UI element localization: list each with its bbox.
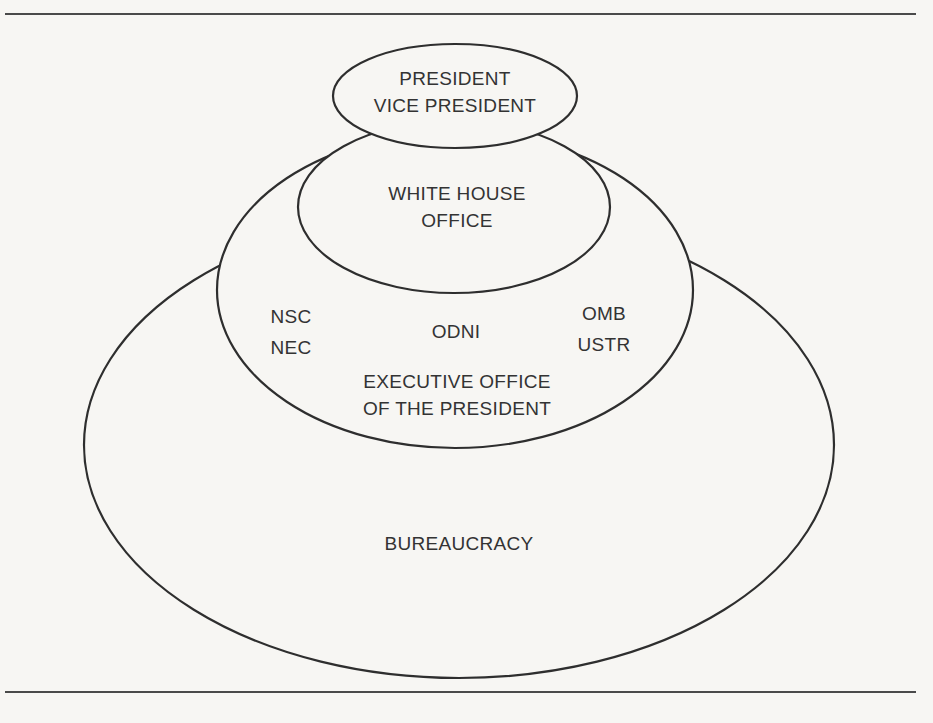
omb-text: OMB: [578, 298, 631, 329]
president-label: PRESIDENT VICE PRESIDENT: [374, 65, 537, 119]
president-text: PRESIDENT: [374, 65, 537, 92]
office-text: OFFICE: [388, 207, 525, 234]
bureaucracy-label: BUREAUCRACY: [385, 530, 534, 557]
white-house-office-label: WHITE HOUSE OFFICE: [388, 180, 525, 234]
nec-text: NEC: [270, 332, 311, 363]
eop-right-members: OMB USTR: [578, 298, 631, 360]
white-house-text: WHITE HOUSE: [388, 180, 525, 207]
bureaucracy-text: BUREAUCRACY: [385, 530, 534, 557]
bottom-rule: [5, 691, 916, 693]
eop-center-members: ODNI: [432, 318, 481, 345]
executive-office-text: EXECUTIVE OFFICE: [363, 368, 551, 395]
ustr-text: USTR: [578, 329, 631, 360]
odni-text: ODNI: [432, 318, 481, 345]
eop-label: EXECUTIVE OFFICE OF THE PRESIDENT: [363, 368, 551, 422]
vice-president-text: VICE PRESIDENT: [374, 92, 537, 119]
nsc-text: NSC: [270, 301, 311, 332]
of-the-president-text: OF THE PRESIDENT: [363, 395, 551, 422]
eop-left-members: NSC NEC: [270, 301, 311, 363]
